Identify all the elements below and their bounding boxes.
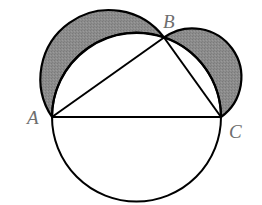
label-a: A [25, 107, 39, 128]
lune-ab-shaded [40, 10, 164, 117]
lune-diagram: A B C [0, 0, 262, 205]
label-c: C [229, 121, 242, 142]
label-b: B [163, 11, 175, 32]
